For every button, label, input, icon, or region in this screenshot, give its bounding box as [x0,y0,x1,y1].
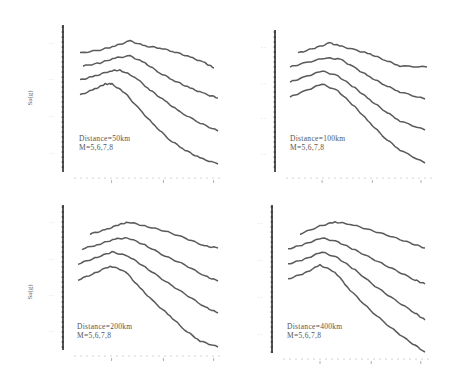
svg-text:· ·: · · [49,40,54,46]
y-axis-label-panel-1: Sa(g) [26,90,34,105]
svg-text:· ·: · · [261,151,266,157]
curve-panel-2-m8 [298,43,427,67]
svg-text:· ·: · · [258,220,263,226]
legend-distance: Distance=100km [290,134,346,143]
svg-text:· ·: · · [261,115,266,121]
svg-text:· ·: · · [258,294,263,300]
chart-grid: · ·· ·· ·· ·· ·· ·· ·· ·· ·· ·· ·· ·· ··… [0,0,453,378]
svg-text:· ·: · · [258,331,263,337]
svg-text:· ·: · · [261,44,266,50]
legend-magnitudes: M=5,6,7,8 [77,331,133,340]
legend-magnitudes: M=5,6,7,8 [79,143,130,152]
legend-panel-4: Distance=400km M=5,6,7,8 [287,322,343,340]
curve-panel-2-m6 [290,71,425,130]
curve-panel-4-m6 [288,252,425,320]
curve-panel-3-m6 [78,252,218,313]
svg-text:· ·: · · [261,80,266,86]
curve-panel-1-m6 [80,70,218,131]
curve-panel-4-m8 [300,222,425,248]
legend-panel-1: Distance=50km M=5,6,7,8 [79,134,130,152]
legend-magnitudes: M=5,6,7,8 [287,331,343,340]
curve-panel-1-m7 [83,56,218,99]
svg-text:· ·: · · [49,292,54,298]
legend-distance: Distance=200km [77,322,133,331]
legend-panel-2: Distance=100km M=5,6,7,8 [290,134,346,152]
svg-text:· ·: · · [258,257,263,263]
svg-text:· ·: · · [49,328,54,334]
y-axis-label-panel-3: Sa(g) [26,284,34,299]
legend-magnitudes: M=5,6,7,8 [290,143,346,152]
svg-text:· ·: · · [49,256,54,262]
svg-text:· ·: · · [49,76,54,82]
svg-text:· ·: · · [49,219,54,225]
svg-text:· ·: · · [49,113,54,119]
curve-panel-2-m7 [290,58,425,99]
svg-text:· ·: · · [49,150,54,156]
curve-panel-4-m7 [288,238,425,284]
curve-panel-3-m8 [90,222,218,248]
axes-panel-2: · ·· ·· ·· · [261,30,432,183]
legend-distance: Distance=50km [79,134,130,143]
axes-panel-4: · ·· ·· ·· · [258,205,429,364]
legend-distance: Distance=400km [287,322,343,331]
legend-panel-3: Distance=200km M=5,6,7,8 [77,322,133,340]
